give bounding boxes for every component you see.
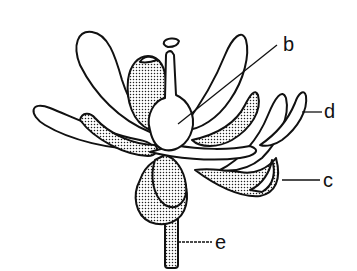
- label-e: e: [215, 231, 226, 253]
- stigma: [164, 38, 179, 47]
- label-b: b: [283, 33, 294, 55]
- label-d: d: [324, 100, 335, 122]
- lower-sepals: [136, 155, 278, 224]
- label-c: c: [323, 169, 333, 191]
- flower-diagram: b d c e: [0, 0, 357, 271]
